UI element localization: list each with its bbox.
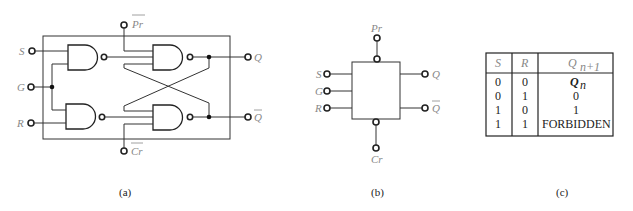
clear-pin[interactable] <box>373 145 379 151</box>
nand-bubble <box>101 54 106 59</box>
s-label: S <box>19 45 25 57</box>
nand-gate-r <box>66 104 96 129</box>
caption-a: (a) <box>119 186 132 199</box>
preset-pin[interactable] <box>374 35 380 41</box>
figure-b-symbol: Pr Cr S G R Q Q (b) <box>314 22 440 199</box>
table-row: 0 1 0 <box>495 89 579 103</box>
q-output-pin[interactable] <box>422 71 428 77</box>
cell-r: 1 <box>522 117 528 131</box>
cell-r: 1 <box>522 89 528 103</box>
cell-s: 1 <box>495 103 501 117</box>
q-label: Q <box>254 51 262 63</box>
qbar-label: Q <box>432 102 440 114</box>
figure-a-circuit: S G R Pr Cr Q Q (a) <box>16 15 262 199</box>
preset-label: Pr <box>370 22 383 34</box>
r-label: R <box>314 102 322 114</box>
r-input-pin[interactable] <box>28 120 34 126</box>
junction-dot <box>207 55 212 60</box>
nand-gate-q <box>153 45 183 70</box>
preset-label: Pr <box>131 18 144 30</box>
nand-bubble <box>99 114 104 119</box>
junction-dot <box>50 85 55 90</box>
cell-q-subscript: n <box>580 78 586 92</box>
g-label: G <box>17 81 25 93</box>
preset-bubble <box>374 56 380 62</box>
g-input-pin[interactable] <box>28 84 34 90</box>
r-label: R <box>16 117 24 129</box>
g-label: G <box>315 85 323 97</box>
r-input-pin[interactable] <box>324 105 330 111</box>
cell-q: FORBIDDEN <box>542 117 611 131</box>
header-s: S <box>495 56 501 70</box>
header-q-subscript: n+1 <box>580 60 600 74</box>
nand-bubble <box>187 114 192 119</box>
figure-c-truth-table: S R Q n+1 0 0 Q n 0 1 0 1 0 1 1 1 FORBID… <box>486 53 613 199</box>
junction-dot <box>207 115 212 120</box>
g-input-pin[interactable] <box>324 88 330 94</box>
cell-s: 1 <box>495 117 501 131</box>
cell-q: 1 <box>573 103 579 117</box>
cell-q: 0 <box>573 89 579 103</box>
cell-s: 0 <box>495 89 501 103</box>
q-output-pin[interactable] <box>245 54 251 60</box>
s-input-pin[interactable] <box>29 48 35 54</box>
cell-r: 0 <box>522 75 528 89</box>
clear-label: Cr <box>131 145 143 157</box>
header-q: Q <box>568 56 577 70</box>
diagram-canvas: S G R Pr Cr Q Q (a) Pr Cr S <box>0 0 633 211</box>
caption-c: (c) <box>556 186 569 199</box>
cell-s: 0 <box>495 75 501 89</box>
s-label: S <box>316 68 322 80</box>
clear-pin[interactable] <box>121 148 127 154</box>
latch-block <box>352 62 400 119</box>
cell-r: 0 <box>522 103 528 117</box>
s-input-pin[interactable] <box>324 71 330 77</box>
preset-pin[interactable] <box>121 22 127 28</box>
q-label: Q <box>432 68 440 80</box>
nand-gate-s <box>68 45 98 70</box>
table-row: 1 0 1 <box>495 103 579 117</box>
clear-bubble <box>373 119 379 125</box>
cell-q: Q <box>570 75 579 89</box>
caption-b: (b) <box>371 186 384 199</box>
header-r: R <box>520 56 529 70</box>
clear-label: Cr <box>371 153 383 165</box>
qbar-output-pin[interactable] <box>245 114 251 120</box>
qbar-label: Q <box>254 111 262 123</box>
nand-bubble <box>187 54 192 59</box>
qbar-output-pin[interactable] <box>422 105 428 111</box>
nand-gate-qbar <box>153 105 183 130</box>
